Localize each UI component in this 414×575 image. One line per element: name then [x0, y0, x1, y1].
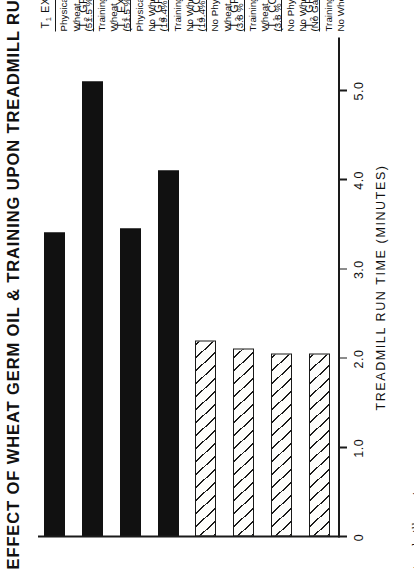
axis-tick [340, 446, 347, 448]
axis-tick-label: 5.0 [352, 81, 366, 100]
axis-tick [340, 536, 347, 538]
axis-tick-label: 4.0 [352, 170, 366, 189]
value-axis-line [338, 37, 340, 537]
figure-stage: EFFECT OF WHEAT GERM OIL & TRAINING UPON… [0, 0, 414, 575]
bar-t1-exercise-wgo [44, 232, 65, 536]
category-label-t2-control-no-wgo: T2 GROUPTrainingNo Wheat Germ Oil [303, 0, 347, 31]
bar-series [38, 37, 340, 537]
category-label-head: T1 CONTROL [266, 0, 283, 31]
category-label-head: T1 CONTROL [190, 0, 207, 31]
axis-tick [340, 268, 347, 270]
axis-tick [340, 178, 347, 180]
axis-tick [340, 357, 347, 359]
bar-t2-control-wgo [233, 349, 254, 537]
value-axis-title: TREADMILL RUN TIME (MINUTES) [374, 37, 388, 537]
category-label-head: T2 GROUP [228, 0, 245, 31]
category-label-head: T2 GROUP [303, 0, 320, 31]
category-label-head: T2 GROUP [77, 0, 94, 31]
bar-t1-control-wgo [195, 340, 216, 536]
bar-t1-control-no-wgo [271, 353, 292, 536]
bar-t2-exercise-wgo [82, 81, 103, 536]
category-label-head: T1 EXERCISE [39, 0, 56, 31]
axis-tick-label: 0 [352, 533, 366, 540]
axis-tick-label: 2.0 [352, 349, 366, 368]
chart-title: EFFECT OF WHEAT GERM OIL & TRAINING UPON… [4, 0, 23, 569]
bar-t1-exercise-no-wgo [120, 228, 141, 536]
category-label-head: T1 EXERCISE [115, 0, 132, 31]
category-axis-line [38, 535, 340, 537]
plot-area: 5.04.03.02.01.00 TREADMILL RUN TIME (MIN… [38, 37, 340, 537]
axis-tick [340, 89, 347, 91]
figure-caption: Figure 10. Effect of wheat germ oil and … [410, 475, 414, 575]
category-axis-labels: T1 EXERCISEPhysical TrainingWheat Germ O… [38, 0, 340, 29]
bar-t2-control-no-wgo [309, 353, 330, 536]
category-label-description: TrainingNo Wheat Germ Oil [323, 0, 347, 31]
axis-tick-label: 1.0 [352, 438, 366, 457]
category-label-head: T2 GROUP [152, 0, 169, 31]
bar-t2-exercise-no-wgo [158, 170, 179, 536]
axis-tick-label: 3.0 [352, 260, 366, 279]
